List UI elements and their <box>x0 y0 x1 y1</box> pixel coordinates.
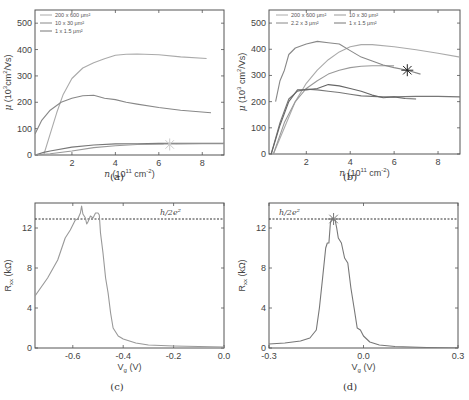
x-tick-label: 8 <box>200 158 205 168</box>
x-tick-label: 0.3 <box>452 351 465 361</box>
x-tick-label: 0.0 <box>218 351 231 361</box>
legend-entry: 1 x 1.5 μm² <box>55 28 83 34</box>
x-axis-label: Vg (V) <box>118 362 142 373</box>
x-tick-label: 6 <box>156 158 161 168</box>
x-tick-label: 8 <box>436 157 441 167</box>
asterisk-marker-icon <box>328 213 340 225</box>
reference-line-label: h/2e² <box>279 208 300 217</box>
data-series <box>35 206 224 347</box>
y-tick-label: 4 <box>261 303 266 313</box>
plot-frame <box>269 203 458 348</box>
panel-caption: (d) <box>343 381 357 392</box>
y-tick-label: 400 <box>17 45 32 55</box>
data-series <box>44 54 207 155</box>
data-series <box>269 218 458 348</box>
series-group <box>271 41 460 154</box>
data-series <box>35 144 224 155</box>
y-tick-label: 300 <box>251 70 266 80</box>
legend: 200 x 600 μm²10 x 30 μm²2.2 x 3 μm²1 x 1… <box>276 12 378 26</box>
panel-a-mobility-chart: 24680100200300400500200 x 600 μm²10 x 30… <box>2 10 224 182</box>
y-tick-label: 12 <box>256 223 266 233</box>
x-tick-label: 4 <box>113 158 118 168</box>
x-tick-label: 4 <box>348 157 353 167</box>
y-axis-label: Rxx (kΩ) <box>3 259 14 291</box>
asterisk-marker-icon <box>164 138 176 150</box>
y-axis-label: μ (103 cm2/Vs) <box>236 53 247 112</box>
panel-caption: (b) <box>343 171 357 182</box>
plot-frame <box>35 203 224 348</box>
y-tick-label: 200 <box>17 97 32 107</box>
y-tick-label: 100 <box>251 123 266 133</box>
asterisk-marker-icon <box>401 64 413 76</box>
x-tick-label: -0.2 <box>166 351 182 361</box>
y-tick-label: 100 <box>17 124 32 134</box>
y-tick-label: 0 <box>27 343 32 353</box>
x-tick-label: 2 <box>304 157 309 167</box>
panel-d-resistance-chart: -0.30.00.304812h/2e²Vg (V)Rxx (kΩ)(d) <box>237 203 464 392</box>
legend-entry: 1 x 1.5 μm² <box>349 20 377 26</box>
series-group <box>269 218 458 348</box>
panel-c-resistance-chart: -0.6-0.4-0.20.004812h/2e²Vg (V)Rxx (kΩ)(… <box>3 203 230 392</box>
panel-b-mobility-chart: 24680100200300400500200 x 600 μm²10 x 30… <box>236 10 460 182</box>
y-axis-label: Rxx (kΩ) <box>237 259 248 291</box>
x-tick-label: 2 <box>69 158 74 168</box>
data-series <box>271 89 460 154</box>
y-axis-label: μ (103cm2/Vs) <box>2 54 13 110</box>
legend-entry: 10 x 30 μm² <box>349 12 378 18</box>
data-series <box>276 41 421 101</box>
figure-canvas: 24680100200300400500200 x 600 μm²10 x 30… <box>0 0 469 400</box>
x-tick-label: -0.4 <box>115 351 131 361</box>
legend-entry: 2.2 x 3 μm² <box>291 20 319 26</box>
series-group <box>35 206 224 347</box>
panel-caption: (a) <box>110 171 124 182</box>
legend-entry: 10 x 30 μm² <box>55 20 84 26</box>
y-tick-label: 500 <box>251 18 266 28</box>
data-series <box>273 45 460 154</box>
x-tick-label: 6 <box>392 157 397 167</box>
legend-entry: 200 x 600 μm² <box>55 12 90 18</box>
x-axis-label: Vg (V) <box>352 362 376 373</box>
legend-entry: 200 x 600 μm² <box>291 12 326 18</box>
y-tick-label: 4 <box>27 303 32 313</box>
x-tick-label: -0.6 <box>65 351 81 361</box>
x-tick-label: 0.0 <box>357 351 370 361</box>
y-tick-label: 300 <box>17 71 32 81</box>
series-group <box>35 54 224 155</box>
panel-caption: (c) <box>110 381 124 392</box>
y-tick-label: 400 <box>251 44 266 54</box>
data-series <box>273 66 394 154</box>
y-tick-label: 0 <box>261 343 266 353</box>
y-tick-label: 8 <box>261 263 266 273</box>
reference-line-label: h/2e² <box>160 208 181 217</box>
y-tick-label: 0 <box>27 150 32 160</box>
y-tick-label: 500 <box>17 18 32 28</box>
y-tick-label: 8 <box>27 263 32 273</box>
y-tick-label: 12 <box>22 223 32 233</box>
y-tick-label: 0 <box>261 149 266 159</box>
plot-frame <box>269 10 460 154</box>
legend: 200 x 600 μm²10 x 30 μm²1 x 1.5 μm² <box>40 12 90 34</box>
y-tick-label: 200 <box>251 97 266 107</box>
